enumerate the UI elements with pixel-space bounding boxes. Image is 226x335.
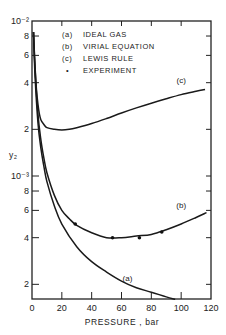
x-tick-label: 20 — [57, 303, 67, 313]
y-tick-label: 10⁻² — [11, 16, 29, 26]
y-tick-label: 8 — [24, 31, 29, 41]
y-tick-label: 4 — [24, 78, 29, 88]
x-tick-label: 120 — [203, 303, 218, 313]
x-tick-label: 60 — [116, 303, 126, 313]
chart: 020406080100120 10⁻²864210⁻³8642 (a)IDEA… — [0, 0, 226, 335]
x-tick-label: 0 — [29, 303, 34, 313]
y-tick-label: 10⁻³ — [11, 171, 29, 181]
x-tick-label: 40 — [87, 303, 97, 313]
y-tick-label: 6 — [24, 205, 29, 215]
legend-label: LEWIS RULE — [83, 54, 133, 63]
y-axis-title: y₂ — [9, 150, 18, 160]
experiment-point — [138, 236, 142, 240]
experiment-point — [160, 230, 164, 234]
experiment-point — [73, 222, 77, 226]
legend-key: (c) — [62, 54, 72, 63]
y-tick-label: 6 — [24, 50, 29, 60]
y-tick-label: 2 — [24, 124, 29, 134]
x-tick-label: 80 — [146, 303, 156, 313]
curve-label-b: (b) — [176, 201, 186, 210]
y-tick-label: 8 — [24, 186, 29, 196]
x-axis-ticks: 020406080100120 — [29, 21, 218, 313]
curve-label-c: (c) — [177, 76, 187, 85]
legend-label: IDEAL GAS — [83, 30, 127, 39]
x-tick-label: 100 — [174, 303, 189, 313]
legend-label: EXPERIMENT — [83, 66, 137, 75]
legend-key: (a) — [62, 30, 73, 39]
legend: (a)IDEAL GAS(b)VIRIAL EQUATION(c)LEWIS R… — [62, 30, 155, 75]
curve-label-a: (a) — [123, 274, 133, 283]
experiment-point — [111, 236, 115, 240]
legend-key: • — [66, 66, 69, 75]
legend-key: (b) — [62, 42, 73, 51]
legend-label: VIRIAL EQUATION — [83, 42, 155, 51]
y-tick-label: 4 — [24, 233, 29, 243]
curve-labels: (a)(b)(c) — [123, 76, 187, 283]
x-axis-title: PRESSURE , bar — [85, 317, 160, 327]
y-tick-label: 2 — [24, 279, 29, 289]
